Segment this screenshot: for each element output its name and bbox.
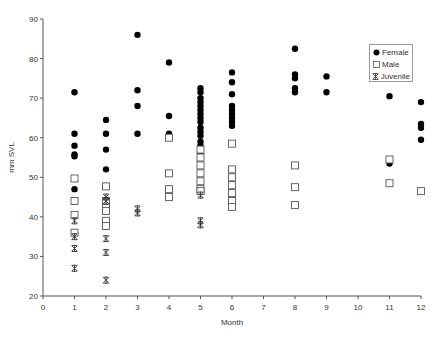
- y-tick-label: 20: [29, 292, 38, 301]
- male-point: [197, 170, 204, 177]
- male-point: [197, 178, 204, 185]
- female-point: [134, 32, 140, 38]
- male-point: [166, 170, 173, 177]
- legend-label: Juvenile: [381, 72, 410, 81]
- female-point: [71, 142, 77, 148]
- female-point: [103, 146, 109, 152]
- y-tick-label: 50: [29, 173, 38, 182]
- male-point: [292, 201, 299, 208]
- female-point: [134, 87, 140, 93]
- x-tick-label: 9: [324, 303, 329, 312]
- female-point: [197, 89, 203, 95]
- x-tick-label: 1: [72, 303, 77, 312]
- juvenile-point: [198, 192, 204, 199]
- male-point: [71, 198, 78, 205]
- female-point: [166, 113, 172, 119]
- legend-label: Male: [382, 60, 399, 69]
- male-point: [229, 140, 236, 147]
- y-tick-label: 70: [29, 94, 38, 103]
- male-point: [229, 182, 236, 189]
- female-point: [103, 131, 109, 137]
- x-tick-label: 0: [41, 303, 46, 312]
- male-point: [103, 183, 110, 190]
- juvenile-point: [198, 221, 204, 228]
- x-tick-label: 4: [167, 303, 172, 312]
- female-point: [134, 103, 140, 109]
- juvenile-point: [72, 245, 78, 252]
- male-point: [197, 162, 204, 169]
- male-point: [292, 162, 299, 169]
- female-point: [229, 123, 235, 129]
- male-point: [229, 190, 236, 197]
- x-tick-label: 3: [135, 303, 140, 312]
- female-point: [386, 93, 392, 99]
- male-point: [197, 146, 204, 153]
- male-point: [166, 186, 173, 193]
- female-point: [71, 131, 77, 137]
- x-tick-label: 10: [354, 303, 363, 312]
- female-point: [229, 79, 235, 85]
- y-tick-label: 40: [29, 213, 38, 222]
- female-point: [166, 59, 172, 65]
- female-point: [71, 186, 77, 192]
- x-axis-title: Month: [221, 318, 243, 327]
- juvenile-point: [72, 233, 78, 240]
- juvenile-point: [72, 265, 78, 272]
- male-point: [103, 222, 110, 229]
- x-tick-label: 6: [230, 303, 235, 312]
- male-point: [386, 180, 393, 187]
- female-point: [229, 69, 235, 75]
- female-point: [103, 117, 109, 123]
- y-tick-label: 30: [29, 252, 38, 261]
- male-point: [386, 156, 393, 163]
- female-point: [197, 133, 203, 139]
- asterisk-icon: [372, 73, 380, 80]
- male-point: [166, 194, 173, 201]
- y-tick-label: 80: [29, 55, 38, 64]
- female-point: [71, 153, 77, 159]
- male-point: [71, 175, 78, 182]
- male-point: [418, 188, 425, 195]
- female-point: [103, 166, 109, 172]
- scatter-chart: 20304050607080900123456789101112Monthmm …: [0, 0, 439, 338]
- y-axis-title: mm SVL: [7, 142, 16, 173]
- female-point: [197, 119, 203, 125]
- female-point: [418, 99, 424, 105]
- filled-circle-icon: [372, 49, 381, 56]
- female-point: [292, 75, 298, 81]
- female-point: [229, 91, 235, 97]
- x-tick-label: 8: [293, 303, 298, 312]
- male-point: [292, 184, 299, 191]
- male-point: [229, 203, 236, 210]
- legend-item-female: Female: [372, 46, 410, 58]
- female-point: [418, 125, 424, 131]
- x-tick-label: 11: [385, 303, 394, 312]
- female-point: [418, 136, 424, 142]
- legend-item-juvenile: Juvenile: [372, 70, 410, 82]
- open-square-icon: [372, 61, 381, 68]
- juvenile-point: [103, 235, 109, 242]
- female-point: [134, 131, 140, 137]
- female-point: [323, 73, 329, 79]
- male-point: [197, 154, 204, 161]
- x-tick-label: 5: [198, 303, 203, 312]
- x-tick-label: 12: [417, 303, 426, 312]
- female-point: [292, 45, 298, 51]
- male-point: [229, 166, 236, 173]
- legend-item-male: Male: [372, 58, 410, 70]
- legend: Female Male Juvenile: [369, 44, 413, 82]
- x-tick-label: 2: [104, 303, 109, 312]
- male-point: [166, 134, 173, 141]
- male-point: [229, 174, 236, 181]
- legend-label: Female: [382, 48, 409, 57]
- juvenile-point: [135, 209, 141, 216]
- y-tick-label: 60: [29, 134, 38, 143]
- y-tick-label: 90: [29, 15, 38, 24]
- juvenile-point: [72, 217, 78, 224]
- x-tick-label: 7: [261, 303, 266, 312]
- juvenile-point: [103, 249, 109, 256]
- female-point: [292, 89, 298, 95]
- female-point: [323, 89, 329, 95]
- juvenile-point: [103, 277, 109, 284]
- male-point: [103, 207, 110, 214]
